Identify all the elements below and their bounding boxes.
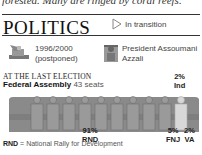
ballot-box-icon [8, 43, 30, 65]
intro-text: forested. Many are ringed by coral reefs… [2, 0, 182, 6]
va-label: 2% VA [184, 126, 195, 144]
play-outline-icon [112, 18, 122, 30]
status-indicator: In transition [112, 18, 166, 30]
fnj-label: 5% FNJ [166, 126, 180, 144]
head-of-state: President Assoumani Azzali [122, 44, 197, 64]
title-rule [2, 35, 200, 36]
status-label: In transition [125, 20, 166, 29]
head-of-state-icon [103, 43, 119, 67]
assembly-label: Federal Assembly 43 seats [3, 80, 104, 89]
ind-label: 2% Ind [174, 72, 185, 90]
legend: RND = National Rally for Development [3, 140, 123, 147]
election-date: 1996/2000 (postponed) [35, 44, 78, 64]
top-rule [2, 14, 200, 15]
